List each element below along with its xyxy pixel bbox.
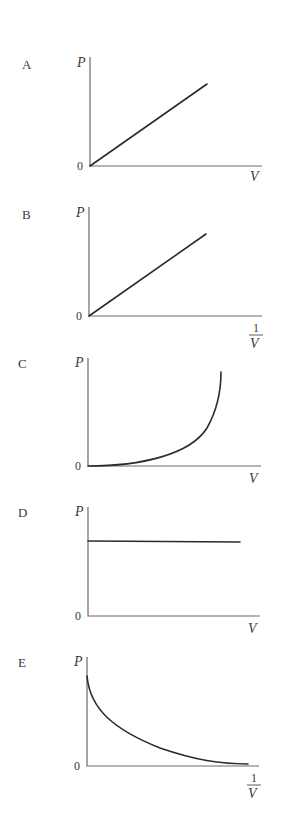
zero-label-d: 0 (75, 609, 81, 623)
zero-label-c: 0 (75, 459, 81, 473)
x-axis-label-a: V (250, 169, 260, 184)
zero-label-b: 0 (76, 309, 82, 323)
axes-e (87, 657, 259, 766)
plot-curve-c (88, 372, 221, 466)
graph-c: C P 0 V (18, 355, 261, 486)
graphs-figure: A P 0 V B P 0 1 V C P 0 V D P 0 V (0, 0, 295, 829)
zero-label-a: 0 (77, 159, 83, 173)
axes-b (89, 207, 262, 316)
option-label-d: D (18, 505, 27, 520)
x-axis-label-e: 1 V (247, 771, 261, 801)
graph-e: E P 0 1 V (18, 654, 261, 801)
option-label-a: A (22, 57, 32, 72)
y-axis-label-c: P (74, 355, 84, 370)
axes-c (88, 358, 261, 466)
fraction-numerator-e: 1 (251, 771, 257, 785)
axes-a (90, 57, 262, 166)
graph-b: B P 0 1 V (22, 205, 263, 351)
x-axis-label-c: V (249, 471, 259, 486)
plot-line-a (90, 84, 207, 166)
graph-d: D P 0 V (18, 504, 260, 636)
x-axis-label-b: 1 V (249, 321, 263, 351)
fraction-denominator-b: V (250, 336, 260, 351)
y-axis-label-e: P (73, 654, 83, 669)
option-label-e: E (18, 655, 26, 670)
fraction-denominator-e: V (248, 786, 258, 801)
option-label-b: B (22, 207, 31, 222)
y-axis-label-a: P (76, 55, 86, 70)
graph-a: A P 0 V (22, 55, 262, 184)
fraction-numerator-b: 1 (253, 321, 259, 335)
y-axis-label-d: P (74, 504, 84, 519)
zero-label-e: 0 (74, 759, 80, 773)
plot-curve-e (87, 676, 248, 764)
option-label-c: C (18, 356, 27, 371)
y-axis-label-b: P (75, 205, 85, 220)
plot-line-d (88, 541, 240, 542)
x-axis-label-d: V (248, 621, 258, 636)
axes-d (88, 507, 260, 616)
plot-line-b (89, 234, 206, 316)
